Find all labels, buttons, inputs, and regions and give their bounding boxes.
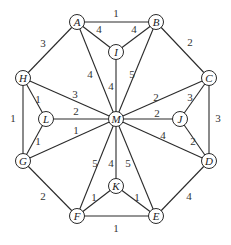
node-i: I bbox=[109, 45, 124, 60]
node-l: L bbox=[39, 112, 54, 127]
node-f: F bbox=[70, 209, 85, 224]
edge-f-g bbox=[23, 161, 77, 216]
edge-weight-f-k: 1 bbox=[91, 191, 97, 203]
edge-weight-b-m: 5 bbox=[129, 68, 135, 80]
edge-weight-i-m: 4 bbox=[108, 80, 114, 92]
edge-b-c bbox=[156, 22, 209, 78]
edge-weight-g-m: 1 bbox=[73, 124, 79, 136]
edge-weight-a-i: 4 bbox=[96, 23, 102, 35]
edge-weight-h-a: 3 bbox=[40, 37, 46, 49]
edge-weight-d-e: 4 bbox=[186, 190, 192, 202]
node-label: E bbox=[152, 210, 160, 222]
node-label: B bbox=[153, 16, 160, 28]
node-label: A bbox=[73, 16, 81, 28]
node-h: H bbox=[16, 71, 31, 86]
edge-weight-h-m: 3 bbox=[72, 88, 78, 100]
node-j: J bbox=[173, 112, 188, 127]
node-e: E bbox=[149, 209, 164, 224]
edge-weight-k-m: 4 bbox=[108, 157, 114, 169]
edge-weight-j-d: 2 bbox=[190, 135, 196, 147]
edge-weight-e-m: 5 bbox=[125, 157, 131, 169]
edge-weight-k-e: 1 bbox=[134, 191, 140, 203]
edge-weight-c-d: 3 bbox=[215, 112, 221, 124]
edge-weight-b-i: 4 bbox=[131, 23, 137, 35]
node-label: K bbox=[111, 180, 120, 192]
edge-weight-a-b: 1 bbox=[113, 7, 119, 19]
node-label: D bbox=[204, 155, 213, 167]
edge-d-e bbox=[156, 161, 209, 216]
edge-weight-f-m: 5 bbox=[92, 157, 98, 169]
node-label: F bbox=[73, 210, 81, 222]
node-g: G bbox=[16, 154, 31, 169]
node-label: H bbox=[18, 72, 28, 84]
node-label: M bbox=[110, 113, 121, 125]
node-b: B bbox=[149, 15, 164, 30]
edge-weight-l-m: 2 bbox=[73, 105, 79, 117]
edge-weight-b-c: 2 bbox=[187, 36, 193, 48]
edge-weight-j-m: 2 bbox=[154, 107, 160, 119]
node-label: C bbox=[205, 72, 213, 84]
node-d: D bbox=[202, 154, 217, 169]
edge-h-a bbox=[23, 22, 77, 78]
edge-weight-f-g: 2 bbox=[40, 190, 46, 202]
edge-weight-g-h: 1 bbox=[10, 112, 16, 124]
weighted-graph: 1234121344445321112243254511 ABCDEFGHIJK… bbox=[0, 0, 231, 245]
edge-weight-d-m: 4 bbox=[160, 129, 166, 141]
edge-weight-e-f: 1 bbox=[113, 222, 119, 234]
node-k: K bbox=[109, 179, 124, 194]
edge-weight-a-m: 4 bbox=[87, 68, 93, 80]
node-label: G bbox=[19, 155, 27, 167]
edge-weight-h-l: 1 bbox=[35, 93, 41, 105]
node-c: C bbox=[202, 71, 217, 86]
node-m: M bbox=[109, 112, 124, 127]
node-label: L bbox=[42, 113, 49, 125]
node-a: A bbox=[70, 15, 85, 30]
edge-weight-l-g: 1 bbox=[35, 135, 41, 147]
edge-weight-c-m: 2 bbox=[153, 91, 159, 103]
edge-weight-c-j: 3 bbox=[187, 91, 193, 103]
